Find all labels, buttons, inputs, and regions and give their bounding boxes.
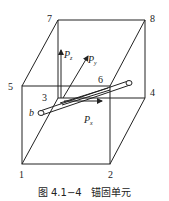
node-label-7: 7 bbox=[47, 13, 52, 24]
force-label-py: Py bbox=[87, 54, 97, 66]
figure-caption: 图 4.1−4 锚固单元 bbox=[0, 184, 169, 199]
node-label-4: 4 bbox=[150, 87, 155, 98]
force-label-px: Px bbox=[83, 114, 93, 126]
node-label-8: 8 bbox=[150, 13, 155, 24]
py-arrow bbox=[63, 56, 88, 98]
cube-edges bbox=[22, 20, 145, 164]
node-label-2: 2 bbox=[108, 169, 113, 180]
node-label-6: 6 bbox=[98, 74, 103, 85]
node-label-3: 3 bbox=[42, 92, 47, 103]
node-label-5: 5 bbox=[8, 81, 13, 92]
node-label-1: 1 bbox=[19, 169, 24, 180]
end-label-b: b bbox=[29, 107, 34, 118]
force-label-pz: Pz bbox=[63, 49, 73, 61]
anchor-element-diagram: 1 2 3 4 5 6 7 8 b Pz Py Px bbox=[0, 0, 169, 184]
